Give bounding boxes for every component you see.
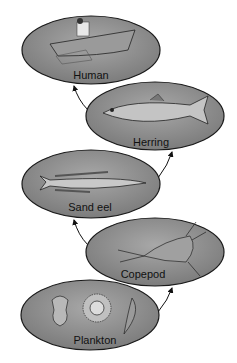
arrow-plankton-to-copepod: [158, 288, 172, 312]
node-label: Plankton: [74, 334, 117, 346]
node-plankton: Plankton: [21, 280, 159, 350]
node-label: Herring: [133, 136, 169, 148]
node-sand-eel: Sand eel: [22, 150, 160, 218]
node-herring: Herring: [86, 82, 224, 150]
node-label: Copepod: [121, 268, 166, 280]
node-label: Sand eel: [68, 201, 111, 213]
node-copepod: Copepod: [86, 218, 224, 286]
node-human: Human: [22, 16, 160, 84]
arrow-herring-to-human: [74, 86, 88, 110]
food-chain-diagram: Human Herring Sand eel Copepod: [0, 0, 237, 363]
node-label: Human: [73, 69, 108, 81]
arrow-sandeel-to-herring: [158, 152, 172, 178]
arrow-copepod-to-sandeel: [74, 220, 88, 245]
